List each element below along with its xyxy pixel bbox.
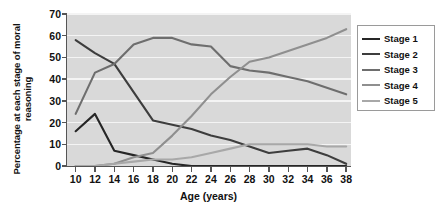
line-chart: Percentage at each stage of moral reason… bbox=[0, 0, 440, 223]
x-tick-label: 32 bbox=[282, 173, 294, 185]
x-tick-label: 10 bbox=[70, 173, 82, 185]
y-tick-label: 20 bbox=[49, 117, 61, 129]
x-tick-mark bbox=[345, 167, 346, 172]
legend-item[interactable]: Stage 5 bbox=[362, 93, 430, 109]
x-tick-label: 24 bbox=[205, 173, 217, 185]
x-tick-mark bbox=[210, 167, 211, 172]
x-tick-label: 36 bbox=[321, 173, 333, 185]
x-tick-mark bbox=[326, 167, 327, 172]
legend-item-label: Stage 4 bbox=[384, 80, 418, 91]
y-tick-mark bbox=[62, 144, 67, 145]
legend-item-label: Stage 3 bbox=[384, 64, 418, 75]
y-tick-mark bbox=[62, 122, 67, 123]
x-tick-mark bbox=[172, 167, 173, 172]
x-tick-label: 22 bbox=[186, 173, 198, 185]
y-tick-mark bbox=[62, 57, 67, 58]
y-axis-tick-labels: 010203040506070 bbox=[36, 14, 61, 166]
x-tick-label: 16 bbox=[128, 173, 140, 185]
y-tick-label: 10 bbox=[49, 138, 61, 150]
y-tick-label: 30 bbox=[49, 95, 61, 107]
legend-item[interactable]: Stage 1 bbox=[362, 31, 430, 47]
y-tick-mark bbox=[62, 100, 67, 101]
x-tick-mark bbox=[114, 167, 115, 172]
x-tick-label: 20 bbox=[166, 173, 178, 185]
x-tick-mark bbox=[230, 167, 231, 172]
x-tick-mark bbox=[133, 167, 134, 172]
x-tick-mark bbox=[152, 167, 153, 172]
y-tick-label: 40 bbox=[49, 73, 61, 85]
x-tick-mark bbox=[268, 167, 269, 172]
legend-item-label: Stage 2 bbox=[384, 49, 418, 60]
legend-item[interactable]: Stage 4 bbox=[362, 78, 430, 94]
y-tick-label: 60 bbox=[49, 30, 61, 42]
series-line bbox=[76, 144, 347, 166]
x-tick-label: 14 bbox=[108, 173, 120, 185]
x-tick-mark bbox=[191, 167, 192, 172]
y-tick-mark bbox=[62, 13, 67, 14]
x-tick-mark bbox=[94, 167, 95, 172]
x-tick-label: 38 bbox=[340, 173, 352, 185]
x-axis-line bbox=[66, 166, 351, 168]
series-line bbox=[76, 114, 347, 166]
y-tick-mark bbox=[62, 78, 67, 79]
x-tick-label: 28 bbox=[244, 173, 256, 185]
y-tick-mark bbox=[62, 165, 67, 166]
legend-item-label: Stage 5 bbox=[384, 95, 418, 106]
x-axis-tick-labels: 101214161820222426283032343638 bbox=[66, 173, 351, 187]
x-tick-mark bbox=[288, 167, 289, 172]
y-tick-label: 70 bbox=[49, 8, 61, 20]
legend-item[interactable]: Stage 2 bbox=[362, 47, 430, 63]
y-axis-title: Percentage at each stage of moral reason… bbox=[11, 14, 34, 184]
x-tick-mark bbox=[249, 167, 250, 172]
series-line bbox=[76, 29, 347, 166]
legend-swatch-icon bbox=[362, 84, 380, 86]
legend-swatch-icon bbox=[362, 53, 380, 55]
series-line bbox=[76, 38, 347, 114]
x-axis-title: Age (years) bbox=[66, 190, 351, 202]
x-tick-label: 18 bbox=[147, 173, 159, 185]
legend: Stage 1Stage 2Stage 3Stage 4Stage 5 bbox=[357, 25, 435, 111]
x-tick-label: 34 bbox=[302, 173, 314, 185]
data-lines bbox=[66, 14, 351, 166]
legend-swatch-icon bbox=[362, 38, 380, 40]
y-tick-label: 50 bbox=[49, 51, 61, 63]
legend-swatch-icon bbox=[362, 69, 380, 71]
x-tick-label: 26 bbox=[224, 173, 236, 185]
legend-item[interactable]: Stage 3 bbox=[362, 62, 430, 78]
x-tick-mark bbox=[75, 167, 76, 172]
y-tick-mark bbox=[62, 35, 67, 36]
x-tick-mark bbox=[307, 167, 308, 172]
legend-item-label: Stage 1 bbox=[384, 33, 418, 44]
y-tick-label: 0 bbox=[55, 160, 61, 172]
x-tick-label: 30 bbox=[263, 173, 275, 185]
x-tick-label: 12 bbox=[89, 173, 101, 185]
legend-swatch-icon bbox=[362, 100, 380, 102]
